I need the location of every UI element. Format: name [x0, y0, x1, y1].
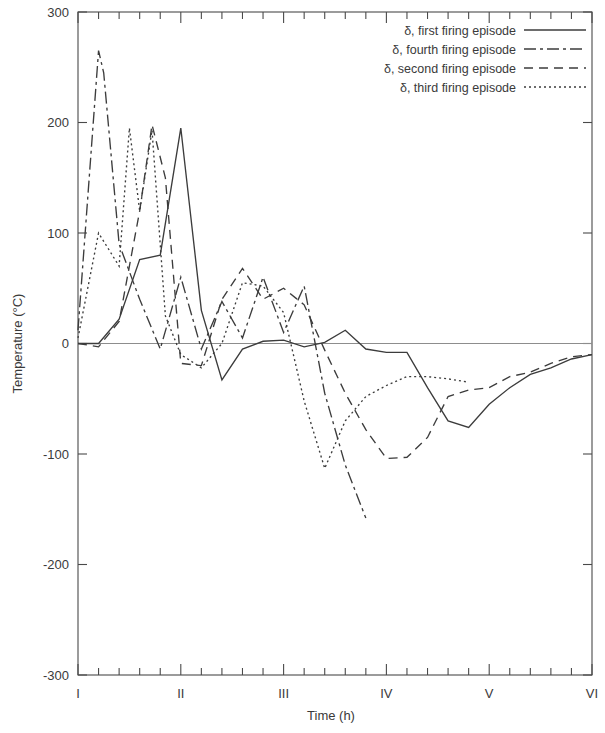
series-line-1 [78, 51, 366, 518]
legend-label-0: δ, first firing episode [404, 24, 516, 38]
series-line-0 [78, 128, 592, 427]
x-tick-label: II [177, 686, 184, 701]
tick-label-layer: 3002001000-100-200-300IIIIIIIVVVI [43, 5, 598, 702]
x-axis-title: Time (h) [307, 708, 355, 723]
x-tick-label: IV [380, 686, 393, 701]
x-tick-label: VI [586, 686, 598, 701]
y-axis-title: Temperature (°C) [10, 294, 25, 394]
series-line-3 [78, 128, 469, 468]
axis-title-layer: Time (h)Temperature (°C) [10, 294, 355, 723]
chart-figure: 3002001000-100-200-300IIIIIIIVVVI Time (… [0, 0, 605, 733]
y-tick-label: 0 [62, 336, 69, 351]
chart-legend: δ, first firing episodeδ, fourth firing … [384, 24, 586, 95]
y-tick-label: 200 [47, 115, 69, 130]
x-tick-label: V [485, 686, 494, 701]
y-tick-label: -300 [43, 668, 69, 683]
y-tick-label: -100 [43, 447, 69, 462]
series-line-2 [78, 125, 592, 459]
y-tick-label: 100 [47, 226, 69, 241]
legend-label-2: δ, second firing episode [384, 62, 516, 76]
x-tick-label: III [278, 686, 289, 701]
y-tick-label: 300 [47, 5, 69, 20]
series-layer [78, 51, 592, 518]
line-chart: 3002001000-100-200-300IIIIIIIVVVI Time (… [0, 0, 605, 733]
legend-label-1: δ, fourth firing episode [392, 43, 516, 57]
y-tick-label: -200 [43, 557, 69, 572]
x-tick-label: I [76, 686, 80, 701]
legend-label-3: δ, third firing episode [400, 81, 516, 95]
